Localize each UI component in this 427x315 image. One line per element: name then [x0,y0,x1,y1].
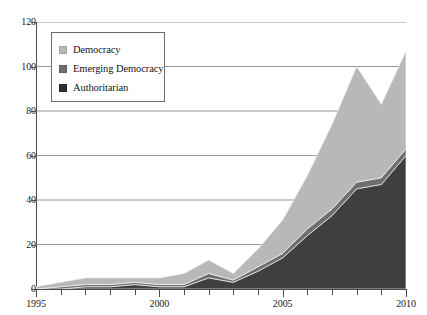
x-tick-mark [61,290,62,295]
x-tick-mark [135,290,136,295]
x-tick-label: 1995 [26,298,46,309]
legend-label: Authoritarian [73,82,128,94]
legend-label: Emerging Democracy [73,63,163,75]
x-tick-mark [184,290,185,295]
x-tick-mark [85,290,86,295]
x-tick-label: 2000 [150,298,170,309]
legend-swatch-icon [59,84,67,92]
stacked-area-chart: 020406080100120 1995200020052010 Democra… [0,0,427,315]
y-axis: 020406080100120 [0,0,36,315]
x-tick-mark [357,290,358,295]
x-tick-mark [233,290,234,295]
x-tick-mark [258,290,259,295]
legend-item: Democracy [59,41,164,59]
legend-swatch-icon [59,65,67,73]
x-tick-mark [381,290,382,295]
x-tick-mark [159,290,160,297]
x-tick-mark [307,290,308,295]
x-tick-label: 2005 [273,298,293,309]
x-tick-mark [332,290,333,295]
legend-item: Authoritarian [59,79,164,97]
x-axis-line [36,289,407,290]
legend-label: Democracy [73,44,121,56]
legend-swatch-icon [59,46,67,54]
x-tick-mark [110,290,111,295]
x-tick-mark [283,290,284,297]
x-tick-label: 2010 [396,298,416,309]
x-tick-mark [406,290,407,297]
legend-item: Emerging Democracy [59,60,164,78]
x-tick-mark [36,290,37,297]
x-tick-mark [209,290,210,295]
chart-legend: DemocracyEmerging DemocracyAuthoritarian [51,32,165,102]
